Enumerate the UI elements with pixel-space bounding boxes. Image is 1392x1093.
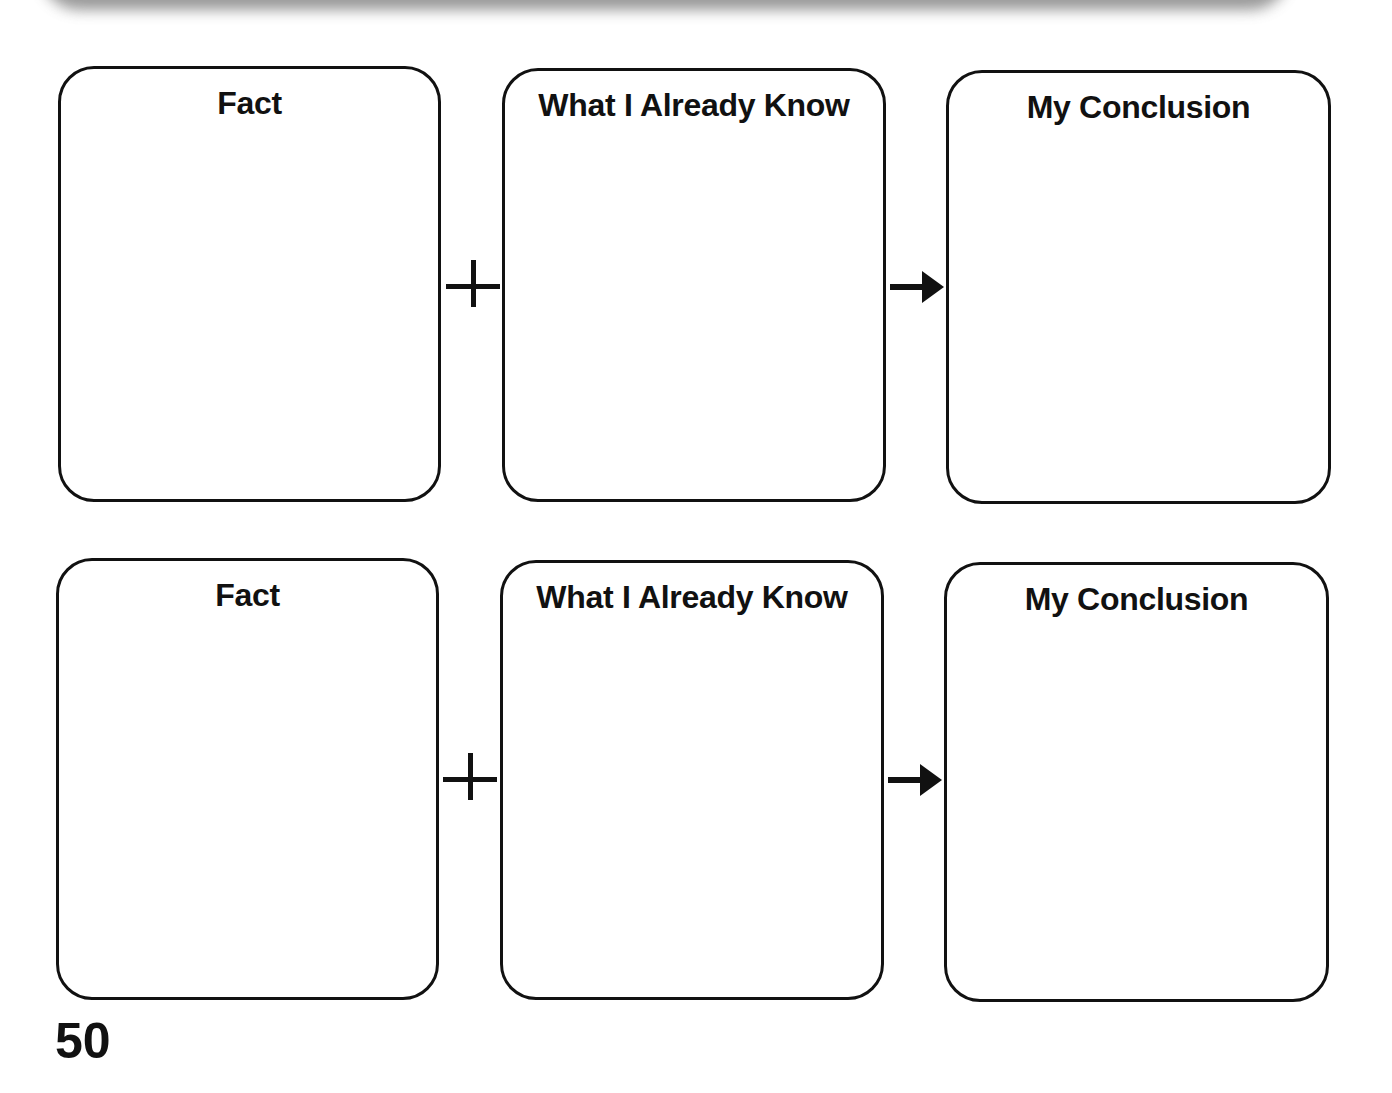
what-i-already-know-box-row-2[interactable]: What I Already Know xyxy=(500,560,884,1000)
arrow-right-icon xyxy=(888,764,942,796)
what-i-already-know-box-title: What I Already Know xyxy=(503,579,881,616)
what-i-already-know-box-title: What I Already Know xyxy=(505,87,883,124)
plus-icon xyxy=(443,753,497,807)
my-conclusion-box-row-1[interactable]: My Conclusion xyxy=(946,70,1331,504)
my-conclusion-box-title: My Conclusion xyxy=(947,581,1326,618)
fact-box-row-2[interactable]: Fact xyxy=(56,558,439,1000)
page-number: 50 xyxy=(55,1012,111,1070)
my-conclusion-box-title: My Conclusion xyxy=(949,89,1328,126)
fact-box-row-1[interactable]: Fact xyxy=(58,66,441,502)
fact-box-title: Fact xyxy=(61,85,438,122)
plus-icon xyxy=(446,260,500,314)
my-conclusion-box-row-2[interactable]: My Conclusion xyxy=(944,562,1329,1002)
arrow-right-icon xyxy=(890,271,944,303)
what-i-already-know-box-row-1[interactable]: What I Already Know xyxy=(502,68,886,502)
fact-box-title: Fact xyxy=(59,577,436,614)
page-edge-shadow xyxy=(40,0,1290,10)
